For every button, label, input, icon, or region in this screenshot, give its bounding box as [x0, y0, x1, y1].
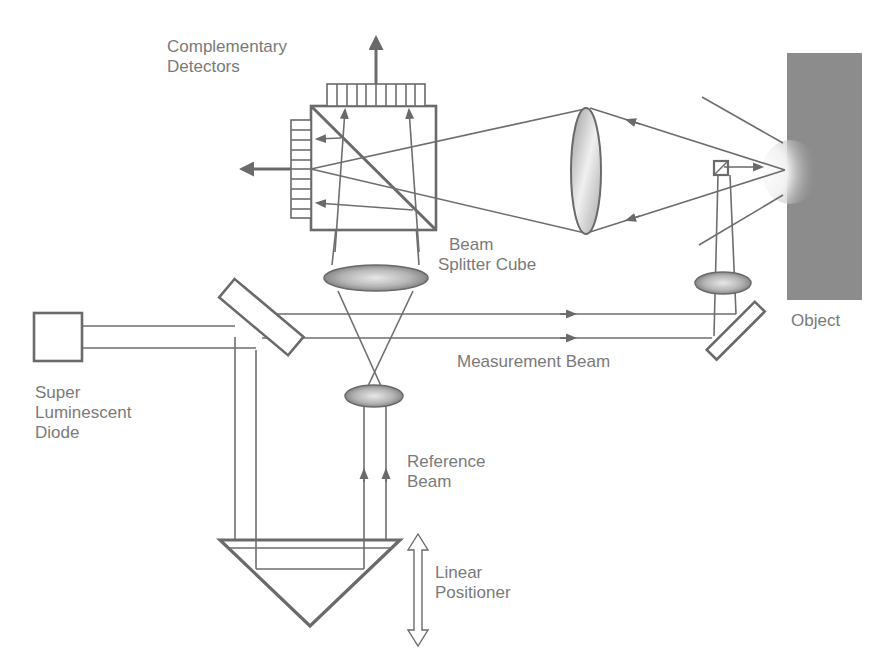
label-line: Beam [449, 235, 536, 255]
measurement-beam-up [714, 175, 736, 336]
label-line: Positioner [435, 583, 511, 603]
label-line: Splitter Cube [438, 255, 536, 275]
label-line: Super [35, 383, 131, 403]
label-object: Object [791, 311, 840, 331]
label-complementary-detectors: Complementary Detectors [167, 37, 287, 77]
label-line: Reference [407, 452, 485, 472]
label-super-luminescent-diode: Super Luminescent Diode [35, 383, 131, 443]
beam-splitter-plate [219, 279, 303, 355]
linear-positioner-arrow [408, 534, 428, 646]
label-measurement-beam: Measurement Beam [457, 352, 610, 372]
label-beam-splitter-cube: Beam Splitter Cube [449, 235, 536, 275]
label-line: Diode [35, 423, 131, 443]
reference-beam-down [235, 337, 256, 540]
focusing-lens-measurement [695, 272, 751, 294]
label-line: Complementary [167, 37, 287, 57]
optical-setup-diagram: Complementary Detectors Beam Splitter Cu… [0, 0, 892, 665]
super-luminescent-diode [34, 313, 82, 361]
corner-cube-retroreflector [220, 540, 400, 626]
reference-beam-up [364, 402, 386, 540]
label-linear-positioner: Linear Positioner [435, 563, 511, 603]
micro-prism [714, 161, 728, 175]
source-beam [82, 326, 256, 348]
label-line: Detectors [167, 57, 287, 77]
imaging-lens-cube [324, 265, 428, 291]
object-return-rays [590, 97, 785, 245]
label-line: Beam [407, 472, 485, 492]
object [762, 53, 862, 300]
label-line: Linear [435, 563, 511, 583]
detector-array-left [291, 120, 311, 218]
reference-lens [345, 385, 403, 407]
measurement-beam-lines [262, 314, 736, 338]
label-reference-beam: Reference Beam [407, 452, 485, 492]
beam-splitter-cube [311, 106, 436, 230]
label-line: Luminescent [35, 403, 131, 423]
collection-lens [571, 108, 601, 234]
detector-array-top [327, 84, 425, 106]
